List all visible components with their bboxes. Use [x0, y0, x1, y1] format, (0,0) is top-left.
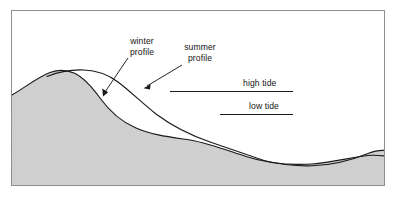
summer-profile-label: summer profile [174, 42, 226, 63]
beach-profile-figure: winter profile summer profile high tide … [0, 0, 396, 198]
summer-profile-label-line1: summer [174, 42, 226, 53]
low-tide-label: low tide [249, 101, 279, 112]
profile-diagram-svg [0, 0, 396, 198]
winter-profile-label: winter profile [118, 36, 166, 57]
winter-profile-label-line2: profile [118, 47, 166, 58]
high-tide-label: high tide [243, 78, 276, 89]
winter-profile-label-line1: winter [118, 36, 166, 47]
summer-profile-label-line2: profile [174, 53, 226, 64]
